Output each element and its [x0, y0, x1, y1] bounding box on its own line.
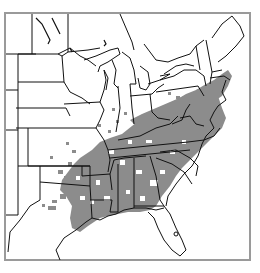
range-map	[0, 0, 260, 273]
lake-details	[36, 18, 106, 52]
